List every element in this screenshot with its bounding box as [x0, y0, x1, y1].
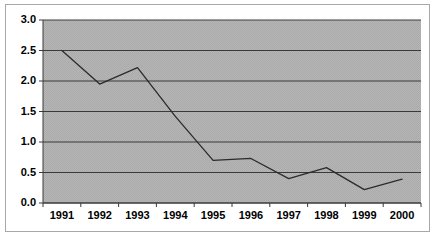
x-axis-tick-label: 1999: [352, 209, 376, 221]
y-axis-tick-label: 2.0: [21, 74, 36, 86]
y-axis-tick-label: 2.5: [21, 44, 36, 56]
x-axis-tick-label: 2000: [390, 209, 414, 221]
x-axis-tick-label: 1991: [50, 209, 74, 221]
x-axis-tick-label: 1997: [276, 209, 300, 221]
x-axis-ticks: [43, 203, 421, 207]
x-axis-tick-label: 1996: [239, 209, 263, 221]
x-axis-tick-label: 1994: [163, 209, 188, 221]
y-axis-tick-label: 0.5: [21, 166, 36, 178]
y-axis-ticks: [39, 20, 43, 203]
y-axis-tick-labels: 0.00.51.01.52.02.53.0: [21, 13, 36, 208]
x-axis-tick-label: 1998: [314, 209, 338, 221]
x-axis-tick-label: 1995: [201, 209, 225, 221]
chart-figure: 0.00.51.01.52.02.53.0 199119921993199419…: [0, 0, 437, 244]
y-axis-tick-label: 0.0: [21, 196, 36, 208]
y-axis-tick-label: 1.5: [21, 105, 36, 117]
x-axis-tick-label: 1992: [87, 209, 111, 221]
y-axis-tick-label: 1.0: [21, 135, 36, 147]
y-axis-tick-label: 3.0: [21, 13, 36, 25]
x-axis-tick-label: 1993: [125, 209, 149, 221]
line-chart: 0.00.51.01.52.02.53.0 199119921993199419…: [0, 0, 437, 244]
x-axis-tick-labels: 1991199219931994199519961997199819992000: [50, 209, 415, 221]
